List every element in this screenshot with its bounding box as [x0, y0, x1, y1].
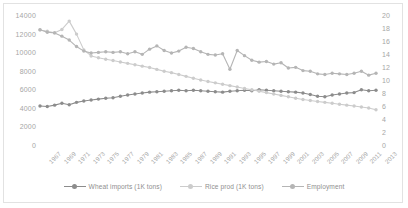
y-axis-left-tick: 6000: [4, 86, 36, 93]
series-marker: [345, 91, 348, 94]
series-marker: [97, 51, 100, 54]
series-marker: [133, 50, 136, 53]
y-axis-right-tick: 6: [382, 103, 386, 110]
series-marker: [155, 44, 158, 47]
series-marker: [323, 95, 326, 98]
series-marker: [192, 77, 195, 80]
series-marker: [352, 104, 355, 107]
series-marker: [199, 50, 202, 53]
series-marker: [352, 72, 355, 75]
series-marker: [301, 91, 304, 94]
series-marker: [330, 93, 333, 96]
series-marker: [111, 51, 114, 54]
series-marker: [301, 98, 304, 101]
series-1: [38, 19, 377, 111]
series-marker: [148, 47, 151, 50]
series-marker: [68, 38, 71, 41]
y-axis-right-tick: 14: [382, 51, 390, 58]
series-marker: [294, 96, 297, 99]
series-marker: [330, 72, 333, 75]
series-marker: [141, 53, 144, 56]
series-marker: [287, 95, 290, 98]
series-marker: [345, 103, 348, 106]
series-marker: [236, 49, 239, 52]
legend-item[interactable]: Wheat imports (1K tons): [64, 183, 162, 190]
series-marker: [367, 89, 370, 92]
series-marker: [345, 73, 348, 76]
series-marker: [287, 90, 290, 93]
series-marker: [206, 80, 209, 83]
series-marker: [141, 64, 144, 67]
y-axis-right-tick: 20: [382, 12, 390, 19]
series-marker: [250, 88, 253, 91]
series-marker: [155, 68, 158, 71]
series-marker: [279, 94, 282, 97]
series-marker: [323, 101, 326, 104]
y-axis-left-tick: 4000: [4, 105, 36, 112]
series-marker: [162, 49, 165, 52]
series-marker: [97, 97, 100, 100]
y-axis-right-tick: 0: [382, 142, 386, 149]
series-marker: [177, 89, 180, 92]
series-marker: [206, 90, 209, 93]
series-marker: [111, 59, 114, 62]
series-marker: [199, 89, 202, 92]
series-marker: [272, 92, 275, 95]
y-axis-right-tick: 12: [382, 64, 390, 71]
y-axis-left-tick: 14000: [4, 12, 36, 19]
series-marker: [214, 81, 217, 84]
series-marker: [192, 47, 195, 50]
series-marker: [46, 31, 49, 34]
series-marker: [206, 53, 209, 56]
series-marker: [170, 71, 173, 74]
y-axis-left-tick: 12000: [4, 31, 36, 38]
series-marker: [214, 90, 217, 93]
legend-marker-icon: [282, 183, 304, 190]
series-marker: [338, 103, 341, 106]
series-marker: [243, 54, 246, 57]
series-marker: [184, 46, 187, 49]
legend-marker-icon: [180, 183, 202, 190]
series-marker: [367, 106, 370, 109]
series-marker: [236, 89, 239, 92]
series-marker: [338, 92, 341, 95]
legend-item[interactable]: Employment: [282, 183, 345, 190]
y-axis-right-tick: 2: [382, 129, 386, 136]
series-marker: [265, 91, 268, 94]
series-marker: [119, 60, 122, 63]
series-marker: [330, 102, 333, 105]
series-marker: [60, 102, 63, 105]
series-marker: [279, 90, 282, 93]
series-marker: [68, 19, 71, 22]
series-marker: [374, 72, 377, 75]
series-marker: [367, 73, 370, 76]
series-marker: [82, 49, 85, 52]
series-marker: [126, 93, 129, 96]
series-marker: [133, 92, 136, 95]
series-marker: [126, 62, 129, 65]
series-marker: [374, 108, 377, 111]
y-axis-left-tick: 2000: [4, 123, 36, 130]
series-marker: [309, 93, 312, 96]
series-2: [38, 28, 377, 77]
y-axis-right-tick: 10: [382, 77, 390, 84]
series-marker: [148, 90, 151, 93]
series-marker: [97, 56, 100, 59]
series-marker: [228, 90, 231, 93]
legend-item[interactable]: Rice prod (1K tons): [180, 183, 264, 190]
series-plot: [4, 4, 404, 204]
y-axis-right-tick: 18: [382, 25, 390, 32]
series-marker: [184, 75, 187, 78]
series-marker: [89, 51, 92, 54]
series-marker: [170, 51, 173, 54]
series-marker: [360, 88, 363, 91]
series-marker: [279, 61, 282, 64]
series-marker: [46, 105, 49, 108]
series-marker: [228, 84, 231, 87]
series-marker: [184, 89, 187, 92]
y-axis-left-tick: 10000: [4, 49, 36, 56]
series-marker: [221, 83, 224, 86]
series-marker: [316, 95, 319, 98]
series-marker: [60, 28, 63, 31]
series-marker: [316, 100, 319, 103]
